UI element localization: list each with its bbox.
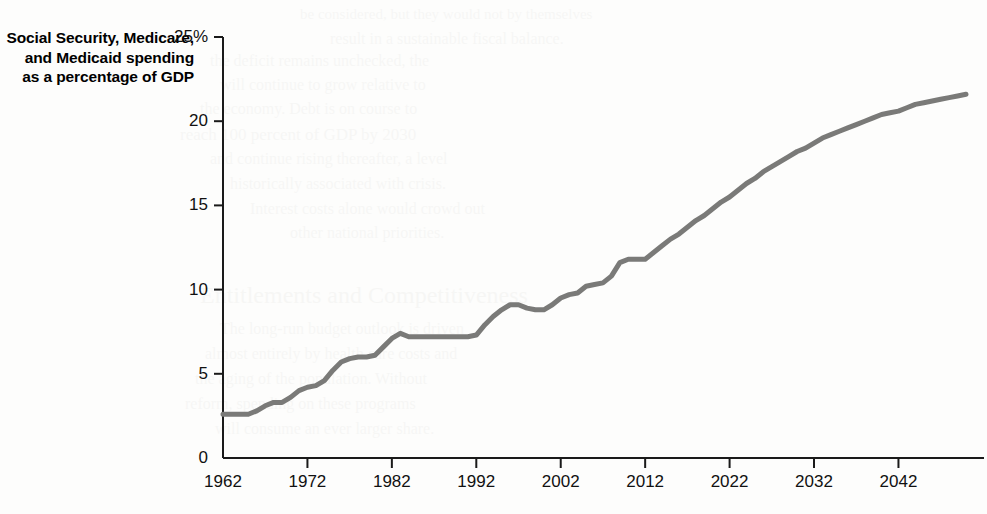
x-axis-tick-label: 1962 — [204, 472, 242, 492]
y-axis-tick-label: 0 — [199, 448, 208, 468]
y-axis-tick-label: 25% — [174, 27, 208, 47]
x-axis-tick-label: 2042 — [880, 472, 918, 492]
y-axis-tick-label: 15 — [189, 195, 208, 215]
x-axis-tick-label: 2022 — [711, 472, 749, 492]
x-axis-tick-label: 1982 — [373, 472, 411, 492]
x-axis-tick-label: 1972 — [289, 472, 327, 492]
x-axis-tick-label: 2032 — [795, 472, 833, 492]
x-axis-tick-label: 2012 — [626, 472, 664, 492]
y-axis-tick-label: 5 — [199, 364, 208, 384]
x-axis-tick-label: 1992 — [457, 472, 495, 492]
chart-figure: Social Security, Medicare, and Medicaid … — [0, 0, 987, 514]
chart-line-series-0 — [223, 94, 966, 414]
chart-plot-area — [0, 0, 987, 514]
y-axis-tick-label: 20 — [189, 111, 208, 131]
chart-series-group — [223, 94, 966, 414]
x-axis-tick-label: 2002 — [542, 472, 580, 492]
y-axis-tick-label: 10 — [189, 280, 208, 300]
chart-axes — [214, 37, 984, 468]
